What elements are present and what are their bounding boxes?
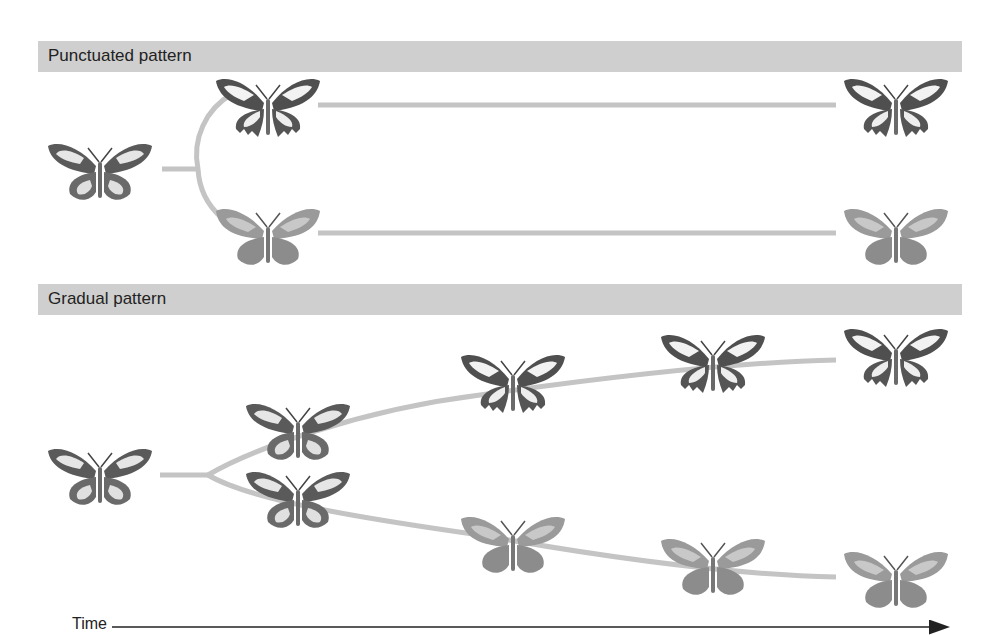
butterfly-lower-lineage-4 (844, 552, 948, 608)
butterfly-light-form-late (844, 209, 948, 265)
butterfly-light-form-early (216, 209, 320, 265)
butterfly-dark-form-late (844, 79, 948, 137)
butterfly-lower-lineage-1 (246, 472, 350, 528)
evolution-diagram (0, 0, 998, 635)
time-axis-label: Time (72, 615, 107, 633)
butterfly-ancestor-gradual (48, 449, 152, 505)
butterfly-upper-lineage-4 (844, 329, 948, 387)
butterfly-ancestor-punctuated (48, 144, 152, 200)
butterfly-dark-form-early (216, 79, 320, 137)
